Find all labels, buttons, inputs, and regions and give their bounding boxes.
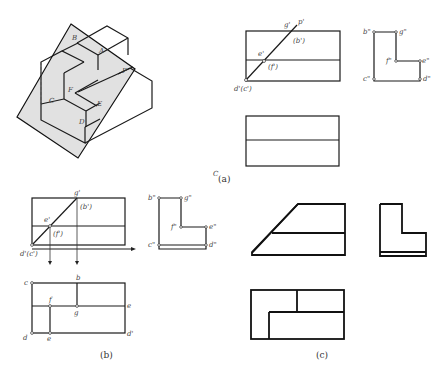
a-side-g: g"	[399, 28, 407, 36]
caption-a: (a)	[218, 174, 230, 184]
b-top-b: b	[76, 274, 81, 282]
caption-c: (c)	[316, 350, 328, 360]
b-side-d: d"	[209, 241, 217, 249]
b-side-b: b"	[148, 194, 156, 202]
panel-b-front-view: g' (b') e' (f') d'(c')	[20, 189, 136, 265]
b-top-f: f	[48, 296, 53, 304]
a-front-b: (b')	[293, 37, 305, 45]
b-front-f: (f')	[53, 230, 63, 238]
panel-b-top-view: c b f g e d e d'	[23, 274, 133, 343]
orthographic-projection-figure: B A P F E C D С g' p' (b') e' (f') d'(c'…	[0, 0, 441, 374]
iso-label-c: C	[49, 97, 55, 105]
a-side-e: e"	[422, 57, 429, 65]
b-front-d: d'(c')	[20, 250, 38, 258]
iso-label-p: P	[121, 67, 127, 75]
b-front-b: (b')	[80, 203, 92, 211]
panel-a-side-view: b" g" f" e" c" d"	[363, 28, 431, 83]
iso-label-e: E	[96, 100, 102, 108]
b-front-e: e'	[44, 216, 50, 224]
a-front-g: g'	[284, 21, 290, 29]
b-side-g: g"	[184, 194, 192, 202]
panel-c-front-view	[252, 204, 345, 255]
b-side-f: f"	[170, 223, 177, 231]
panel-b-side-view: b" g" f" e" c" d"	[148, 194, 217, 249]
b-front-g: g'	[74, 189, 80, 197]
iso-label-a: A	[98, 47, 104, 55]
panel-c-top-view	[251, 290, 344, 339]
isometric-view: B A P F E C D	[17, 24, 152, 158]
a-side-f: f"	[385, 57, 392, 65]
a-side-c: c"	[363, 75, 370, 83]
a-side-b: b"	[363, 28, 371, 36]
b-top-d-right: d'	[127, 330, 133, 338]
panel-c-side-view	[380, 204, 426, 256]
iso-label-b: B	[71, 34, 77, 42]
b-top-g: g	[74, 309, 79, 317]
a-front-e: e'	[258, 50, 264, 58]
caption-b: (b)	[100, 350, 113, 360]
a-front-p: p'	[298, 18, 304, 26]
b-top-d: d	[23, 334, 28, 342]
drawing-svg: B A P F E C D С g' p' (b') e' (f') d'(c'…	[0, 0, 441, 374]
b-top-e: e	[47, 335, 51, 343]
panel-a-front-view: g' p' (b') e' (f') d'(c')	[234, 18, 340, 93]
panel-a-top-view	[246, 116, 339, 166]
b-top-c: c	[24, 279, 28, 287]
b-side-c: c"	[148, 241, 155, 249]
b-side-e: e"	[209, 223, 216, 231]
iso-label-d: D	[78, 118, 85, 126]
a-side-d: d"	[423, 75, 431, 83]
a-front-d: d'(c')	[234, 85, 252, 93]
a-front-f: (f')	[268, 63, 278, 71]
b-top-e-right: e	[127, 302, 131, 310]
